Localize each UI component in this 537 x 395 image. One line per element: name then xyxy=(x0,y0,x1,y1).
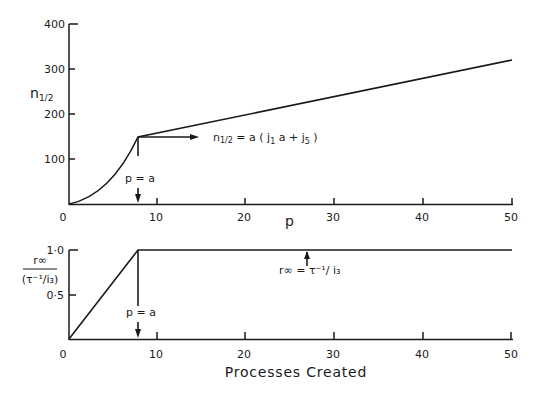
top-chart: 400 300 200 100 0 10 20 30 40 50 n1/2 p … xyxy=(30,18,518,229)
figure: 400 300 200 100 0 10 20 30 40 50 n1/2 p … xyxy=(0,0,537,395)
down-arrow-icon xyxy=(135,329,141,338)
up-arrow-icon xyxy=(304,251,310,259)
x-tick-label: 10 xyxy=(149,348,163,361)
bottom-y-axis-numerator: r∞ xyxy=(33,254,47,267)
n-half-formula: n1/2 = a ( j1 a + j5 ) xyxy=(213,131,318,146)
top-x-axis-title: p xyxy=(285,213,294,229)
bottom-y-axis-denominator: (τ⁻¹/i₃) xyxy=(22,273,59,286)
x-tick-label: 20 xyxy=(237,211,251,224)
x-tick-label: 20 xyxy=(237,348,251,361)
bottom-chart: 1·0 0·5 0 10 20 30 40 50 r∞ (τ⁻¹/i₃) Pro… xyxy=(22,244,518,380)
x-tick-label: 30 xyxy=(326,348,340,361)
y-tick-label: 0·5 xyxy=(47,289,65,302)
bottom-pa-label: p = a xyxy=(126,306,156,319)
x-tick-label: 40 xyxy=(415,348,429,361)
x-tick-label: 50 xyxy=(504,211,518,224)
x-tick-label: 40 xyxy=(415,211,429,224)
y-tick-label: 300 xyxy=(44,63,65,76)
r-infinity-formula: r∞ = τ⁻¹/ i₃ xyxy=(279,264,340,277)
x-tick-label: 50 xyxy=(504,348,518,361)
y-tick-label: 200 xyxy=(44,108,65,121)
y-tick-label: 1·0 xyxy=(47,244,65,257)
x-tick-label: 30 xyxy=(326,211,340,224)
y-tick-label: 100 xyxy=(44,153,65,166)
top-pa-label: p = a xyxy=(125,172,155,185)
right-arrow-icon xyxy=(190,134,199,140)
x-tick-label: 0 xyxy=(60,211,67,224)
y-tick-label: 400 xyxy=(44,18,65,31)
x-tick-label: 0 xyxy=(60,348,67,361)
top-y-axis-title: n1/2 xyxy=(30,85,53,103)
down-arrow-icon xyxy=(135,194,141,203)
bottom-x-axis-title: Processes Created xyxy=(225,364,367,380)
x-tick-label: 10 xyxy=(149,211,163,224)
